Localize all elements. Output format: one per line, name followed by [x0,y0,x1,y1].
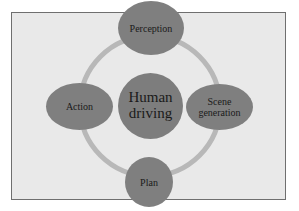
node-plan: Plan [125,157,173,207]
node-scene-generation: Scene generation [186,84,253,130]
center-node-human-driving: Human driving [118,73,183,139]
node-perception: Perception [118,1,184,55]
node-scene-generation-label: Scene generation [198,96,240,118]
node-action-label: Action [66,101,93,112]
node-perception-label: Perception [130,23,173,34]
node-action: Action [46,83,113,130]
node-plan-label: Plan [140,177,158,188]
center-node-label: Human driving [128,90,172,122]
